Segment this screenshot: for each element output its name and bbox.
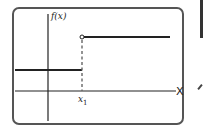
step-function-plot: f(x) X x 1: [0, 0, 203, 128]
x1-subscript: 1: [83, 99, 87, 107]
open-circle-marker: [80, 35, 84, 39]
adjacent-panel-edge: [200, 0, 203, 38]
x-axis-label: X: [176, 85, 184, 98]
y-axis-label: f(x): [50, 11, 67, 21]
